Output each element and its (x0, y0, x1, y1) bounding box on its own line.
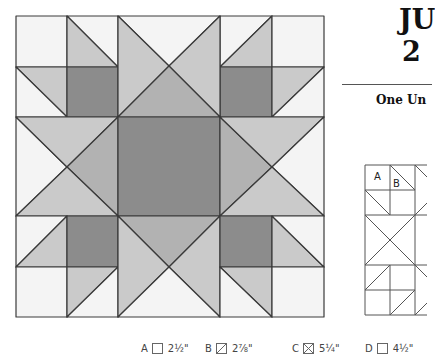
legend-item-b: B 2⅞" (205, 340, 253, 356)
title-divider (342, 84, 432, 85)
half-square-triangle-icon (216, 343, 227, 354)
quarter-square-triangle-icon (303, 343, 314, 354)
legend-letter: C (292, 343, 299, 354)
page-title: JU (399, 4, 435, 35)
page-title-number: 2 (402, 36, 421, 67)
legend-item-c: C 5¼" (292, 340, 340, 356)
legend-size: 2⅞" (232, 343, 253, 354)
subtitle: One Un (376, 93, 426, 107)
legend-letter: A (141, 343, 148, 354)
legend-letter: B (205, 343, 212, 354)
legend-item-d: D 4½" (365, 340, 413, 356)
legend-letter: D (365, 343, 373, 354)
square-patch-icon (152, 343, 163, 354)
diagram-label-b: B (393, 178, 400, 189)
legend-item-a: A 2½" (141, 340, 189, 356)
diagram-label-a: A (374, 171, 381, 182)
legend-size: 2½" (168, 343, 189, 354)
legend-size: 5¼" (319, 343, 340, 354)
legend-size: 4½" (393, 343, 414, 354)
square-patch-icon (377, 343, 388, 354)
